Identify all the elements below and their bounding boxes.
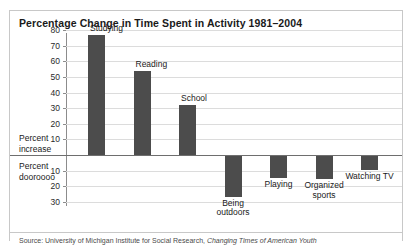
gridline <box>66 108 402 109</box>
chart-figure: Percentage Change in Time Spent in Activ… <box>0 0 411 247</box>
gridline <box>66 46 402 47</box>
y-axis-tick-label: 40 <box>36 89 60 98</box>
y-axis-tick-mark <box>63 46 66 47</box>
bar-being-outdoors <box>225 156 242 197</box>
bar-watching-tv <box>361 156 378 170</box>
plot-area: 8070605040302010102030StudyingReadingSch… <box>0 0 411 247</box>
gridline <box>66 93 402 94</box>
bar-label-watching-tv: Watching TV <box>343 172 397 182</box>
gridline <box>66 77 402 78</box>
y-axis-positive <box>66 33 67 155</box>
y-axis-tick-mark <box>63 124 66 125</box>
y-axis-tick-mark <box>63 93 66 94</box>
bar-organized-sports <box>316 156 333 179</box>
side-label-increase: Percent increase <box>19 133 65 154</box>
y-axis-tick-mark <box>63 108 66 109</box>
y-axis-tick-label: 70 <box>36 42 60 51</box>
source-note: Source: University of Michigan Institute… <box>19 237 317 244</box>
y-axis-tick-mark <box>63 186 66 187</box>
bar-label-studying: Studying <box>90 24 123 34</box>
y-axis-negative <box>66 156 67 206</box>
bar-school <box>179 105 196 155</box>
gridline <box>66 139 402 140</box>
y-axis-tick-label: 30 <box>36 198 60 207</box>
y-axis-tick-mark <box>63 77 66 78</box>
source-prefix: Source: University of Michigan Institute… <box>19 237 207 244</box>
bar-playing <box>270 156 287 178</box>
source-italic-title: Changing Times of American Youth <box>207 237 317 244</box>
bar-reading <box>134 71 151 155</box>
gridline <box>66 61 402 62</box>
y-axis-tick-label: 60 <box>36 57 60 66</box>
y-axis-tick-label: 20 <box>36 182 60 191</box>
y-axis-tick-label: 50 <box>36 73 60 82</box>
zero-baseline <box>10 155 402 156</box>
bar-label-reading: Reading <box>136 60 168 70</box>
y-axis-tick-mark <box>63 61 66 62</box>
gridline <box>66 124 402 125</box>
bar-label-school: School <box>181 94 207 104</box>
bar-label-being-outdoors: Being outdoors <box>206 199 260 219</box>
y-axis-tick-label: 80 <box>36 26 60 35</box>
side-label-decrease: Percent dooroooo <box>19 161 65 182</box>
bar-studying <box>88 35 105 155</box>
y-axis-tick-mark <box>63 202 66 203</box>
y-axis-tick-label: 30 <box>36 104 60 113</box>
bar-label-organized-sports: Organized sports <box>297 181 351 201</box>
y-axis-tick-label: 20 <box>36 120 60 129</box>
y-axis-tick-mark <box>63 30 66 31</box>
